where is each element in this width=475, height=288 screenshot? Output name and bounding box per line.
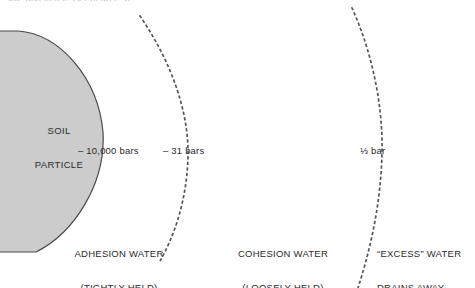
cohesion-pressure-label: – 31 bars xyxy=(163,145,204,156)
cohesion-caption-line2: (LOOSELY HELD) xyxy=(218,282,348,288)
cohesion-water-caption: COHESION WATER (LOOSELY HELD) xyxy=(218,226,348,288)
excess-water-caption: “EXCESS” WATER DRAINS AWAY xyxy=(377,226,475,288)
soil-particle-label-line2: PARTICLE xyxy=(26,159,92,170)
excess-caption-line2: DRAINS AWAY xyxy=(377,282,475,288)
adhesion-caption-line2: (TIGHTLY HELD) xyxy=(56,282,182,288)
adhesion-caption-line1: ADHESION WATER xyxy=(56,248,182,259)
adhesion-water-caption: ADHESION WATER (TIGHTLY HELD) xyxy=(56,226,182,288)
adhesion-pressure-label: – 10,000 bars xyxy=(78,145,139,156)
soil-water-diagram: soil, and to a lesser degree, a .dotted-… xyxy=(0,0,475,288)
soil-particle-label-line1: SOIL xyxy=(26,125,92,136)
excess-pressure-label: ⅓ bar xyxy=(360,145,385,156)
excess-caption-line1: “EXCESS” WATER xyxy=(377,248,475,259)
cohesion-caption-line1: COHESION WATER xyxy=(218,248,348,259)
